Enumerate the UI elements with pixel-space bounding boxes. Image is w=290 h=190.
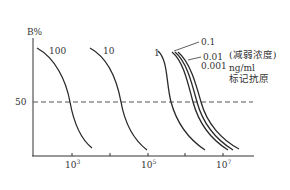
legend-line-3: 标记抗原 — [229, 74, 269, 84]
legend-line-1: (减弱浓度) — [229, 50, 276, 60]
curve-label-10: 10 — [103, 46, 114, 56]
legend-line-2: ng/ml — [229, 63, 255, 73]
y-axis-label: B% — [27, 27, 42, 37]
curve-label-0.1: 0.1 — [201, 37, 215, 47]
x-tick-1e7: 107 — [216, 160, 231, 170]
leader-lines — [174, 42, 201, 60]
x-tick-1e3: 103 — [65, 160, 80, 170]
curve-label-100: 100 — [49, 46, 66, 56]
x-tick-1e5: 105 — [141, 160, 156, 170]
y-tick-50: 50 — [15, 97, 26, 107]
curve-10 — [90, 48, 147, 150]
chart: B% 50 100 10 1 0.1 0.01 0.001 (减弱浓度) ng/… — [0, 0, 290, 190]
curve-label-0.001: 0.001 — [201, 61, 227, 71]
curve-100 — [37, 48, 92, 148]
curve-label-1: 1 — [154, 48, 160, 58]
